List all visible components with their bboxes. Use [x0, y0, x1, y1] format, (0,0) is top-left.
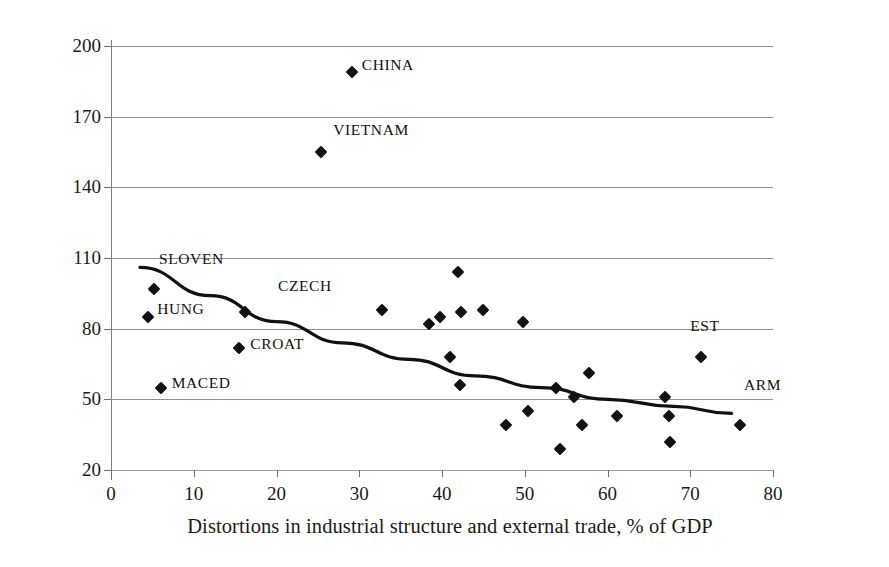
data-point-18 [550, 381, 563, 394]
data-point-22 [583, 367, 596, 380]
x-tick-mark-60 [608, 470, 609, 477]
data-point-czech [239, 306, 252, 319]
data-point-21 [575, 419, 588, 432]
point-label-arm: ARM [744, 377, 781, 393]
x-axis-title: Distortions in industrial structure and … [60, 515, 840, 538]
point-label-croat: CROAT [250, 336, 304, 352]
y-tick-label-20: 20 [31, 460, 101, 479]
y-tick-label-200: 200 [31, 36, 101, 55]
scatter-chart-figure: 1996 GDP as a % of 1999 GDP 205080110140… [0, 0, 889, 567]
data-point-19 [553, 442, 566, 455]
data-point-15 [499, 419, 512, 432]
x-tick-mark-80 [773, 470, 774, 477]
gridline-y-50 [111, 399, 773, 400]
data-point-10 [444, 351, 457, 364]
data-point-hung [142, 311, 155, 324]
data-point-croat [233, 341, 246, 354]
data-point-24 [659, 391, 672, 404]
x-tick-label-20: 20 [247, 484, 307, 503]
x-tick-label-50: 50 [495, 484, 555, 503]
x-tick-label-0: 0 [81, 484, 141, 503]
gridline-y-200 [111, 46, 773, 47]
data-point-26 [664, 435, 677, 448]
y-tick-mark-20 [104, 470, 111, 471]
data-point-25 [662, 409, 675, 422]
point-label-vietnam: VIETNAM [333, 122, 409, 138]
x-tick-label-30: 30 [329, 484, 389, 503]
y-tick-mark-50 [104, 399, 111, 400]
plot-area: HUNGSLOVENMACEDCROATCZECHVIETNAMCHINAEST… [111, 46, 773, 470]
trendline-path [140, 267, 732, 413]
gridline-y-80 [111, 329, 773, 330]
x-tick-label-80: 80 [743, 484, 803, 503]
data-point-11 [451, 266, 464, 279]
data-point-17 [522, 405, 535, 418]
y-tick-label-80: 80 [31, 319, 101, 338]
y-tick-mark-200 [104, 46, 111, 47]
gridline-y-170 [111, 117, 773, 118]
gridline-y-140 [111, 187, 773, 188]
x-tick-label-10: 10 [164, 484, 224, 503]
y-tick-mark-140 [104, 187, 111, 188]
y-tick-label-50: 50 [31, 389, 101, 408]
y-tick-label-140: 140 [31, 177, 101, 196]
y-tick-mark-80 [104, 329, 111, 330]
data-point-7 [376, 303, 389, 316]
x-tick-mark-50 [525, 470, 526, 477]
point-label-hung: HUNG [157, 301, 204, 317]
y-tick-mark-170 [104, 117, 111, 118]
data-point-13 [454, 379, 467, 392]
point-label-sloven: SLOVEN [159, 251, 224, 267]
x-tick-mark-20 [277, 470, 278, 477]
x-tick-mark-40 [442, 470, 443, 477]
x-tick-mark-10 [194, 470, 195, 477]
data-point-23 [611, 409, 624, 422]
point-label-china: CHINA [362, 57, 414, 73]
data-point-27 [695, 351, 708, 364]
x-tick-label-60: 60 [578, 484, 638, 503]
data-point-14 [477, 303, 490, 316]
data-point-sloven [148, 282, 161, 295]
point-label-czech: CZECH [278, 278, 332, 294]
x-tick-label-70: 70 [660, 484, 720, 503]
point-label-est: EST [690, 318, 719, 334]
x-tick-mark-0 [111, 470, 112, 477]
x-tick-mark-70 [690, 470, 691, 477]
x-tick-mark-30 [359, 470, 360, 477]
point-label-maced: MACED [172, 375, 231, 391]
data-point-16 [517, 315, 530, 328]
x-tick-label-40: 40 [412, 484, 472, 503]
y-tick-label-170: 170 [31, 107, 101, 126]
y-tick-label-110: 110 [31, 248, 101, 267]
data-point-28 [734, 419, 747, 432]
data-point-20 [567, 391, 580, 404]
y-tick-mark-110 [104, 258, 111, 259]
data-point-9 [434, 311, 447, 324]
data-point-vietnam [315, 146, 328, 159]
data-point-maced [154, 381, 167, 394]
data-point-china [345, 66, 358, 79]
data-point-12 [455, 306, 468, 319]
